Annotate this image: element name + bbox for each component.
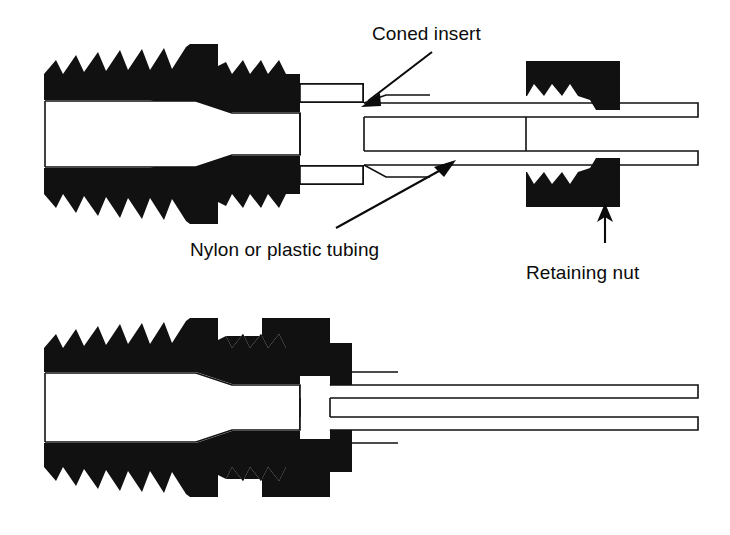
retaining-nut-label: Retaining nut bbox=[526, 262, 640, 283]
fitting-body-socket-lower bbox=[300, 166, 363, 184]
coned-insert-label: Coned insert bbox=[372, 23, 482, 44]
fitting-body-socket bbox=[300, 84, 363, 102]
assembled-tube-lower-wall bbox=[300, 417, 698, 430]
compression-fitting-diagram: Coned insert Nylon or plastic tubing Ret… bbox=[0, 0, 730, 535]
tube-lower-wall bbox=[364, 151, 698, 165]
tube-upper-wall bbox=[364, 103, 698, 117]
tubing-label: Nylon or plastic tubing bbox=[190, 239, 379, 260]
assembled-tube-upper-wall bbox=[300, 385, 698, 398]
